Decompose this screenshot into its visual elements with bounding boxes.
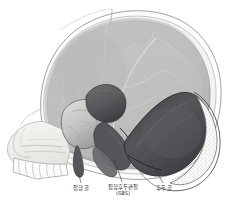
skull-anatomy-figure: 접형골 접형후두관절 (SBS) 후두골: [0, 0, 234, 219]
label-sphenoid-text: 접형골: [73, 185, 88, 191]
label-occiput: 후두골: [156, 185, 171, 191]
label-sbs-abbreviation: (SBS): [108, 190, 139, 196]
label-sbs-text: 접형후두관절: [108, 184, 139, 190]
label-sphenoid: 접형골: [73, 185, 88, 191]
label-occiput-text: 후두골: [156, 185, 171, 191]
label-spheno-basilar-symphysis: 접형후두관절 (SBS): [108, 184, 139, 196]
illustration-stage: 접형골 접형후두관절 (SBS) 후두골: [0, 0, 234, 219]
